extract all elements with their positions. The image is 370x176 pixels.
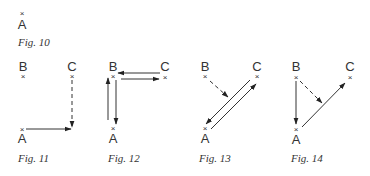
point-label-a: A	[201, 131, 210, 146]
point-label-a: A	[292, 132, 301, 147]
solid-arrow	[302, 83, 345, 127]
point-label-a: A	[109, 131, 118, 146]
figure-11: B × C × × A Fig. 11	[17, 59, 77, 164]
point-mark: ×	[203, 72, 208, 81]
point-label-a: A	[18, 131, 27, 146]
figure-12: B × C × × A Fig. 12	[107, 59, 170, 164]
point-mark: ×	[294, 73, 299, 82]
figure-caption: Fig. 11	[17, 152, 49, 164]
point-mark: ×	[348, 73, 353, 82]
point-mark: ×	[163, 73, 168, 82]
figure-10: × A Fig. 10	[17, 9, 50, 48]
figure-caption: Fig. 13	[198, 152, 231, 164]
point-mark: ×	[111, 72, 116, 81]
point-mark: ×	[70, 72, 75, 81]
figure-caption: Fig. 12	[107, 152, 140, 164]
figure-caption: Fig. 14	[290, 152, 323, 164]
point-label-a: A	[18, 17, 27, 32]
figure-caption: Fig. 10	[17, 36, 50, 48]
point-mark: ×	[21, 72, 26, 81]
solid-arrow	[211, 84, 256, 129]
vector-diagrams: × A Fig. 10 B × C × × A Fig. 11 B × C × …	[0, 0, 370, 176]
point-label-c: C	[160, 59, 169, 74]
point-mark: ×	[255, 72, 260, 81]
figure-13: B × C × × A Fig. 13	[198, 59, 262, 164]
figure-14: B × C × × A Fig. 14	[290, 59, 355, 164]
dashed-arrow	[210, 81, 228, 97]
dashed-arrow	[300, 81, 322, 103]
point-label-c: C	[345, 59, 354, 74]
point-label-b: B	[292, 59, 301, 74]
solid-arrow	[206, 80, 250, 124]
